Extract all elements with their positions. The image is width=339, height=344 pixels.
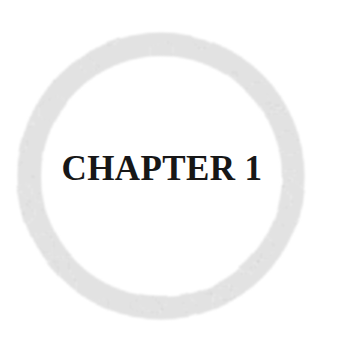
chapter-opener-page: CHAPTER 1 bbox=[0, 0, 339, 344]
chapter-heading: CHAPTER 1 bbox=[0, 151, 324, 186]
